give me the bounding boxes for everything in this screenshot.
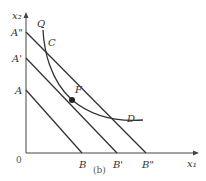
origin-label: 0: [16, 155, 22, 165]
x-axis-arrow-icon: [193, 151, 199, 156]
label-A1: A': [11, 53, 22, 64]
y-axis-arrow-icon: [24, 12, 29, 18]
label-B2: B": [141, 159, 154, 170]
curve-Q: [43, 30, 143, 120]
y-axis-label: x₂: [12, 10, 22, 21]
label-B1: B': [112, 159, 123, 170]
diagram-canvas: x₂ x₁ 0 A" A' A B B' B" Q C F D (b): [0, 0, 206, 181]
label-A2: A": [10, 27, 23, 38]
label-D: D: [126, 113, 135, 124]
label-Q: Q: [37, 18, 45, 29]
x-axis-label: x₁: [187, 158, 197, 169]
line-A2B2: [26, 32, 146, 153]
label-C: C: [48, 37, 56, 48]
label-B: B: [78, 159, 86, 170]
label-F: F: [74, 84, 83, 95]
point-F-marker: [69, 97, 75, 103]
label-A: A: [14, 85, 22, 96]
figure-caption: (b): [93, 165, 106, 175]
